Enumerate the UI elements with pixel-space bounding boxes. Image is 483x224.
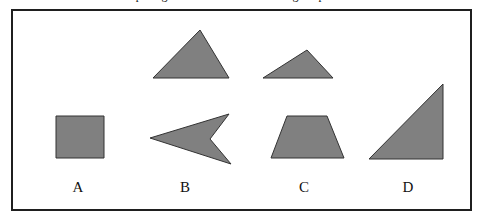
shape-label-d: D: [393, 180, 423, 195]
shape-label-a: A: [63, 180, 93, 195]
shape-label-b: B: [170, 180, 200, 195]
figure-page: comparing the areas of the following sha…: [0, 0, 483, 224]
clipped-caption-text: comparing the areas of the following sha…: [0, 0, 483, 2]
shape-label-c: C: [289, 180, 319, 195]
